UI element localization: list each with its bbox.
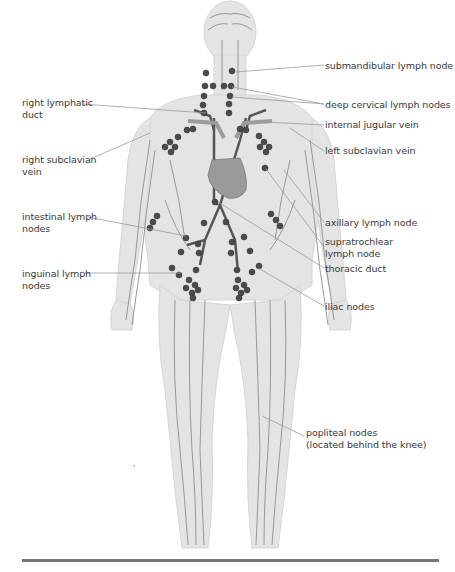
label-thoracic-duct: thoracic duct: [325, 263, 386, 275]
label-right-subclavian-vein: right subclavian vein: [22, 154, 97, 177]
label-deep-cervical-lymph-nodes: deep cervical lymph nodes: [325, 99, 450, 111]
label-inguinal-lymph-nodes: inguinal lymph nodes: [22, 268, 91, 291]
lymphatic-system-diagram: right lymphatic duct right subclavian ve…: [0, 0, 455, 572]
bottom-rule-divider: [22, 559, 439, 562]
label-supratrochlear-lymph-node: supratrochlear lymph node: [325, 236, 393, 259]
label-left-subclavian-vein: left subclavian vein: [325, 145, 415, 157]
label-axillary-lymph-node: axillary lymph node: [325, 217, 417, 229]
label-submandibular-lymph-node: submandibular lymph node: [325, 60, 453, 72]
label-iliac-nodes: iliac nodes: [325, 301, 375, 313]
label-internal-jugular-vein: internal jugular vein: [325, 119, 419, 131]
label-intestinal-lymph-nodes: intestinal lymph nodes: [22, 211, 97, 234]
label-popliteal-nodes: popliteal nodes (located behind the knee…: [306, 427, 426, 450]
label-right-lymphatic-duct: right lymphatic duct: [22, 97, 93, 120]
